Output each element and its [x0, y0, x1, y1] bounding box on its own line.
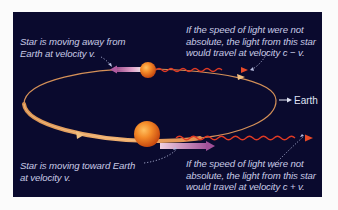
earth-label: Earth [294, 95, 318, 106]
caption-line: If the speed of light were not [186, 158, 316, 170]
caption-line: If the speed of light were not [186, 24, 316, 36]
caption-star-toward: Star is moving toward Earth at velocity … [20, 160, 135, 183]
caption-light-away: If the speed of light were not absolute,… [186, 24, 316, 59]
motion-arrow-away [110, 66, 144, 74]
arrow-right-icon [279, 98, 292, 103]
star-far [140, 62, 156, 78]
caption-line: absolute, the light from this star [186, 170, 316, 182]
caption-line: would travel at velocity c + v. [186, 181, 316, 193]
caption-line: absolute, the light from this star [186, 36, 316, 48]
caption-line: at velocity v. [20, 172, 135, 184]
star-near [134, 121, 160, 147]
caption-line: Star is moving toward Earth [20, 160, 135, 172]
caption-star-away: Star is moving away from Earth at veloci… [20, 36, 125, 59]
caption-line: Earth at velocity v. [20, 48, 125, 60]
caption-line: would travel at velocity c − v. [186, 47, 316, 59]
caption-light-toward: If the speed of light were not absolute,… [186, 158, 316, 193]
caption-line: Star is moving away from [20, 36, 125, 48]
